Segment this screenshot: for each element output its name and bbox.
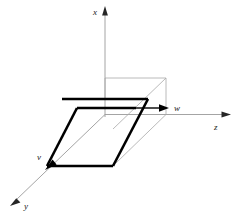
vector-w-label: w: [174, 103, 180, 113]
z-axis-label: z: [213, 122, 218, 132]
x-axis-label: x: [92, 7, 97, 17]
x-axis-arrowhead: [102, 6, 108, 16]
figure-canvas: w v x y z: [0, 0, 235, 214]
coordinate-diagram-svg: w v x y z: [0, 0, 235, 214]
y-axis-arrowhead: [10, 198, 20, 206]
vector-w-arrowhead: [159, 104, 169, 111]
construction-diagonal-lower: [116, 115, 166, 164]
construction-diagonal-upper: [113, 78, 166, 129]
loop-left-side: [47, 108, 77, 166]
construction-lines: [10, 6, 231, 206]
y-axis-line: [16, 115, 105, 201]
z-axis-arrowhead: [222, 112, 232, 118]
y-axis-label: y: [23, 201, 28, 211]
vector-v-label: v: [37, 152, 41, 162]
